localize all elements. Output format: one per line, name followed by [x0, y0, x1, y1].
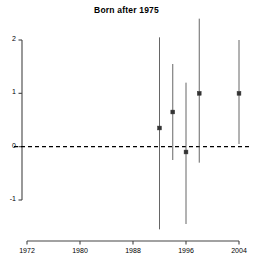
- y-tick-label: 0: [0, 142, 16, 149]
- error-bar-series: [158, 19, 241, 230]
- chart-container: Born after 1975 -10121972198019881996200…: [0, 0, 253, 274]
- plot-canvas: [0, 0, 253, 274]
- x-tick-label: 1996: [166, 247, 206, 254]
- data-point-marker: [171, 110, 175, 114]
- x-tick-label: 2004: [219, 247, 253, 254]
- plot-area: -101219721980198819962004: [0, 0, 253, 274]
- data-point-marker: [237, 91, 241, 95]
- data-point-marker: [184, 150, 188, 154]
- x-tick-label: 1988: [113, 247, 153, 254]
- error-bar-item: [158, 37, 162, 229]
- axes-layer: [19, 40, 240, 245]
- error-bar-item: [237, 40, 241, 144]
- error-bar-item: [171, 64, 175, 160]
- y-tick-label: 2: [0, 35, 16, 42]
- x-tick-label: 1980: [60, 247, 100, 254]
- x-tick-label: 1972: [7, 247, 47, 254]
- y-tick-label: 1: [0, 88, 16, 95]
- data-point-marker: [158, 126, 162, 130]
- data-point-marker: [197, 91, 201, 95]
- error-bar-item: [184, 83, 188, 224]
- y-tick-label: -1: [0, 195, 16, 202]
- error-bar-item: [197, 19, 201, 163]
